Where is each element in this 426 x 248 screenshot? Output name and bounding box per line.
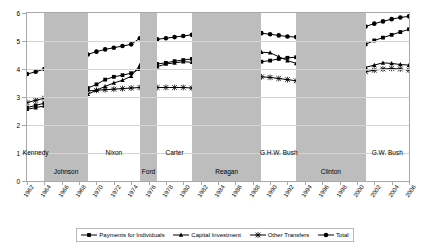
data-point-marker (164, 36, 169, 41)
x-axis-tick (114, 182, 115, 185)
data-point-marker (103, 78, 107, 82)
data-point-marker (381, 19, 386, 24)
data-point-marker (285, 34, 290, 39)
x-axis-tick-label: 1964 (40, 184, 53, 198)
data-point-marker (398, 15, 403, 20)
x-axis-tick-label: 1984 (213, 184, 226, 198)
x-axis-tick (305, 182, 306, 185)
x-axis-tick-label: 1972 (109, 184, 122, 198)
data-point-marker (172, 35, 177, 40)
data-point-marker (94, 87, 100, 93)
data-point-marker (390, 33, 394, 37)
data-point-marker (128, 85, 134, 91)
data-point-marker (33, 70, 38, 75)
x-axis-tick (62, 182, 63, 185)
x-axis-tick-label: 1988 (248, 184, 261, 198)
legend-item[interactable]: Payments for Individuals (81, 231, 164, 239)
x-axis-tick-label: 1994 (300, 184, 313, 198)
gridline (27, 153, 409, 154)
x-axis: 1962196419661968197019721974197619781980… (26, 184, 410, 218)
data-point-marker (268, 32, 273, 37)
data-point-marker (285, 77, 291, 83)
x-axis-tick-label: 1962 (22, 184, 35, 198)
x-axis-tick-label: 2004 (387, 184, 400, 198)
data-point-marker (112, 75, 116, 79)
data-point-marker (267, 75, 273, 81)
gridline (27, 41, 409, 42)
x-axis-tick (149, 182, 150, 185)
x-axis-tick (340, 182, 341, 185)
y-axis: 0123456 (0, 12, 24, 182)
chart-legend: Payments for IndividualsCapital Investme… (76, 228, 354, 242)
x-axis-tick (166, 182, 167, 185)
x-axis-tick-label: 2006 (404, 184, 417, 198)
x-axis-tick-label: 1980 (179, 184, 192, 198)
data-point-marker (181, 34, 186, 39)
data-point-marker (255, 232, 261, 238)
data-point-marker (268, 59, 272, 63)
legend-label: Other Transfers (268, 232, 310, 238)
y-axis-tick-label: 2 (16, 122, 20, 129)
data-point-marker (120, 44, 125, 49)
x-axis-tick-label: 1990 (265, 184, 278, 198)
legend-item[interactable]: Total (318, 231, 349, 239)
data-point-marker (276, 76, 282, 82)
x-axis-tick-label: 1996 (318, 184, 331, 198)
gridline (27, 125, 409, 126)
data-point-marker (121, 73, 125, 77)
data-point-marker (276, 33, 281, 38)
data-point-marker (407, 14, 409, 19)
data-point-marker (120, 86, 126, 92)
x-axis-tick-label: 1978 (161, 184, 174, 198)
x-axis-tick-label: 1982 (196, 184, 209, 198)
data-point-marker (129, 42, 134, 47)
data-point-marker (389, 17, 394, 22)
data-point-marker (102, 87, 108, 93)
x-axis-tick-label: 1970 (92, 184, 105, 198)
x-axis-tick-label: 1976 (144, 184, 157, 198)
data-point-marker (324, 233, 329, 238)
data-point-marker (398, 30, 402, 34)
x-axis-tick (357, 182, 358, 185)
x-axis-tick (201, 182, 202, 185)
x-axis-tick-label: 1986 (231, 184, 244, 198)
data-point-marker (112, 45, 117, 50)
data-point-marker (27, 100, 30, 106)
legend-marker-star-icon (250, 231, 266, 239)
data-point-marker (103, 47, 108, 52)
data-point-marker (381, 36, 385, 40)
legend-marker-square-icon (81, 231, 97, 239)
legend-marker-triangle-icon (173, 231, 189, 239)
y-axis-tick-label: 4 (16, 66, 20, 73)
y-axis-tick-label: 1 (16, 150, 20, 157)
plot-area (26, 12, 410, 182)
data-point-marker (372, 21, 377, 26)
legend-item[interactable]: Capital Investment (173, 231, 241, 239)
data-point-marker (87, 233, 91, 237)
x-axis-tick-label: 1968 (74, 184, 87, 198)
gridline (27, 69, 409, 70)
x-axis-tick-label: 1998 (335, 184, 348, 198)
legend-marker-circle-icon (318, 231, 334, 239)
legend-item[interactable]: Other Transfers (250, 231, 310, 239)
y-axis-tick-label: 3 (16, 94, 20, 101)
data-point-marker (407, 27, 409, 31)
x-axis-tick-label: 2002 (370, 184, 383, 198)
legend-label: Payments for Individuals (99, 232, 164, 238)
x-axis-tick (253, 182, 254, 185)
data-point-marker (163, 85, 169, 91)
data-point-marker (172, 85, 178, 91)
x-axis-tick-label: 1966 (57, 184, 70, 198)
y-axis-tick-label: 5 (16, 38, 20, 45)
x-axis-tick (218, 182, 219, 185)
x-axis-tick-label: 2000 (352, 184, 365, 198)
legend-label: Total (336, 232, 349, 238)
x-axis-tick-label: 1974 (127, 184, 140, 198)
data-point-marker (111, 86, 117, 92)
data-point-marker (27, 72, 29, 77)
data-point-marker (94, 49, 99, 54)
data-point-marker (95, 83, 99, 87)
legend-label: Capital Investment (191, 232, 241, 238)
data-point-marker (33, 97, 39, 103)
x-axis-tick (392, 182, 393, 185)
